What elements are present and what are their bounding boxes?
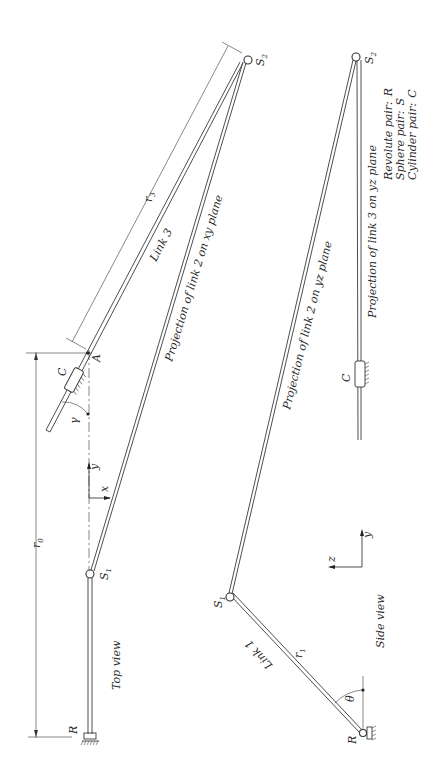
ground-hatch-icon	[372, 726, 376, 740]
arrowhead-icon	[34, 353, 38, 360]
sphere-joint-s2-side	[352, 53, 360, 61]
cylinder-joint-c-side	[355, 361, 365, 387]
ground-bracket	[367, 727, 372, 739]
ground-hatch-icon	[81, 741, 98, 745]
label-r-top: R	[67, 726, 80, 735]
sphere-joint-s2-top	[244, 56, 252, 64]
r3-label: r3	[142, 192, 157, 202]
label-s2-top: S2	[254, 53, 269, 66]
proj-link2-xy-label: Projection of link 2 on xy plane	[162, 193, 226, 364]
label-theta: θ	[344, 695, 357, 702]
link1-side-edge	[233, 593, 363, 731]
label-gamma: γ	[68, 417, 81, 424]
proj-link2-xy-edge	[94, 63, 246, 571]
link3-label: Link 3	[147, 226, 175, 264]
proj-link2-xy-edge	[91, 62, 243, 570]
legend-cylinder: Cylinder pair:C	[406, 89, 419, 180]
axis-label-x: x	[98, 485, 111, 492]
proj-link2-yz-edge	[232, 61, 356, 594]
gamma-arc	[62, 402, 88, 414]
axis-label-z: z	[325, 556, 338, 563]
r1-label: r1	[292, 648, 307, 658]
side-view: Link 1 r1 θ R S1 Projection of link 2 on…	[212, 51, 387, 745]
proj-link3-yz-label: Projection of link 3 on yz plane	[366, 145, 379, 319]
label-c-top: C	[56, 367, 69, 376]
label-c-side: C	[340, 373, 353, 382]
label-s2-side: S2	[363, 51, 378, 64]
label-s1-top: S1	[98, 568, 113, 580]
axis-label-y-side: y	[361, 531, 374, 539]
theta-dot	[361, 688, 364, 691]
link1-side-edge	[230, 595, 360, 733]
arrowhead-icon	[34, 730, 38, 737]
revolute-joint-r-side	[360, 730, 367, 737]
r0-label: r0	[30, 538, 45, 548]
top-view-title: Top view	[110, 640, 123, 690]
z-axis-arrow-icon	[328, 565, 335, 569]
legend: Revolute pair:R Sphere pair:S Cylinder p…	[382, 88, 419, 181]
side-view-title: Side view	[374, 594, 387, 648]
proj-link2-yz-edge	[229, 60, 353, 593]
axis-label-y: y	[88, 463, 101, 471]
mechanism-diagram: r0 R S1 Projection of link 2 on xy plane…	[0, 0, 424, 768]
gamma-dot	[86, 412, 89, 415]
label-r-side: R	[346, 736, 359, 745]
top-view: r0 R S1 Projection of link 2 on xy plane…	[26, 42, 269, 745]
revolute-joint-r	[84, 733, 96, 739]
r3-extension	[66, 338, 86, 349]
sphere-joint-s1-side	[226, 593, 234, 601]
sphere-joint-s1	[86, 570, 94, 578]
link1-label: Link 1	[242, 637, 276, 673]
x-axis-arrow-icon	[104, 496, 111, 500]
label-s1-side: S1	[212, 596, 227, 608]
label-a: A	[90, 354, 103, 363]
cylinder-hatch-icon	[365, 362, 369, 384]
link3-end	[46, 430, 50, 432]
proj-link2-yz-label: Projection of link 2 on yz plane	[280, 239, 335, 411]
